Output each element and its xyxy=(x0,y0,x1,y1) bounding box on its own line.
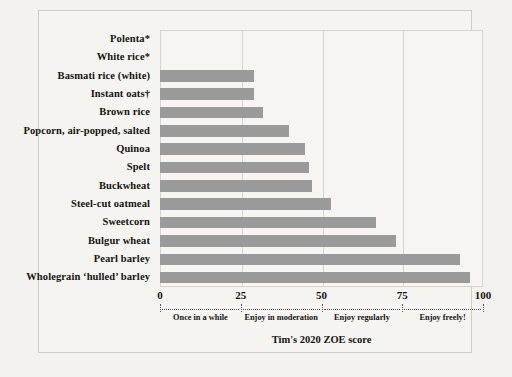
zone-separator xyxy=(162,309,239,310)
bar-row xyxy=(160,195,483,213)
value-axis-title: Tim's 2020 ZOE score xyxy=(160,334,483,345)
zone-boundary-tick xyxy=(483,304,484,312)
bar xyxy=(160,180,312,192)
zone-label: Enjoy in moderation xyxy=(244,313,317,322)
bar-row xyxy=(160,85,483,103)
category-label: Quinoa xyxy=(0,140,155,158)
category-label: Basmati rice (white) xyxy=(0,67,155,85)
x-tick-label: 100 xyxy=(475,289,492,301)
category-label: Wholegrain ‘hulled’ barley xyxy=(0,268,155,286)
bar xyxy=(160,88,254,100)
x-tick-label: 50 xyxy=(316,289,327,301)
category-axis-labels: Polenta*White rice*Basmati rice (white)I… xyxy=(0,30,155,287)
bar xyxy=(160,198,331,210)
category-label: Bulgur wheat xyxy=(0,232,155,250)
bar-row xyxy=(160,103,483,121)
bar-row xyxy=(160,158,483,176)
bar-row xyxy=(160,140,483,158)
zone-labels: Once in a whileEnjoy in moderationEnjoy … xyxy=(150,313,493,327)
category-label: Polenta* xyxy=(0,30,155,48)
bar-row xyxy=(160,232,483,250)
category-label: Brown rice xyxy=(0,103,155,121)
bar-row xyxy=(160,250,483,268)
category-label: Sweetcorn xyxy=(0,213,155,231)
x-tick-label: 25 xyxy=(235,289,246,301)
zoe-score-bar-chart: Polenta*White rice*Basmati rice (white)I… xyxy=(0,0,512,377)
bar xyxy=(160,143,305,155)
bar xyxy=(160,235,396,247)
zone-label: Enjoy regularly xyxy=(334,313,390,322)
bar-row xyxy=(160,67,483,85)
zone-label: Enjoy freely! xyxy=(420,313,466,322)
zone-boundary-tick xyxy=(160,304,161,312)
zone-separator xyxy=(404,309,481,310)
category-label: Buckwheat xyxy=(0,177,155,195)
bar xyxy=(160,272,470,284)
zone-boundary-tick xyxy=(402,304,403,312)
zone-separator xyxy=(324,309,401,310)
zone-boundary-tick xyxy=(241,304,242,312)
zone-separator xyxy=(243,309,320,310)
bar-row xyxy=(160,177,483,195)
category-label: Pearl barley xyxy=(0,250,155,268)
zone-label: Once in a while xyxy=(173,313,228,322)
bar-row xyxy=(160,48,483,66)
zone-dotted-band xyxy=(160,307,483,311)
value-axis-ticks: 0255075100 xyxy=(160,289,483,305)
zone-boundary-tick xyxy=(322,304,323,312)
bar-row xyxy=(160,213,483,231)
bar xyxy=(160,254,460,266)
bar xyxy=(160,70,254,82)
category-label: Steel-cut oatmeal xyxy=(0,195,155,213)
bar xyxy=(160,217,376,229)
category-label: Popcorn, air-popped, salted xyxy=(0,122,155,140)
bar xyxy=(160,107,263,119)
bar-row xyxy=(160,122,483,140)
bar xyxy=(160,162,309,174)
bar-row xyxy=(160,268,483,286)
category-label: White rice* xyxy=(0,48,155,66)
category-label: Instant oats† xyxy=(0,85,155,103)
category-label: Spelt xyxy=(0,158,155,176)
bar-series xyxy=(160,30,483,287)
bar xyxy=(160,125,289,137)
bar-row xyxy=(160,30,483,48)
x-tick-label: 75 xyxy=(397,289,408,301)
x-tick-label: 0 xyxy=(157,289,163,301)
